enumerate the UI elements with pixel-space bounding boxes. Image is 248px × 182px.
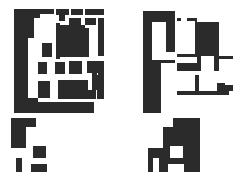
- pattern-block: [55, 62, 65, 74]
- pattern-block: [28, 98, 38, 113]
- pattern-block: [42, 43, 52, 57]
- pattern-block: [219, 59, 233, 71]
- pattern-block: [201, 56, 214, 71]
- pattern-block: [60, 25, 85, 57]
- pattern-block: [143, 9, 177, 11]
- bottom-right-pattern-graphic: [148, 118, 200, 172]
- pattern-block: [56, 23, 60, 59]
- pattern-block: [28, 9, 40, 18]
- pattern-block: [139, 9, 143, 113]
- pattern-block: [31, 164, 47, 172]
- pattern-block: [168, 164, 184, 172]
- pattern-block: [229, 91, 233, 113]
- panel-top-left: [14, 9, 104, 113]
- pattern-block: [69, 18, 81, 25]
- pattern-block: [58, 80, 88, 90]
- pattern-block: [225, 75, 233, 85]
- pattern-block: [98, 18, 104, 56]
- pattern-block: [28, 18, 34, 38]
- pattern-block: [177, 95, 229, 113]
- pattern-block: [181, 18, 187, 21]
- pattern-block: [40, 9, 54, 14]
- top-right-pattern-graphic: [139, 9, 233, 113]
- pattern-block: [59, 11, 65, 21]
- pattern-block: [177, 9, 195, 18]
- pattern-block: [200, 9, 233, 18]
- pattern-block: [195, 9, 200, 18]
- pattern-block: [87, 61, 98, 73]
- pattern-block: [177, 75, 195, 91]
- pattern-block: [219, 22, 233, 56]
- pattern-block: [98, 61, 104, 75]
- pattern-block: [38, 62, 47, 74]
- pattern-block: [148, 118, 163, 148]
- pattern-block: [163, 118, 173, 127]
- pattern-block: [14, 9, 28, 113]
- pattern-block: [16, 158, 22, 172]
- pattern-block: [11, 118, 26, 148]
- pattern-block: [177, 21, 195, 54]
- pattern-block: [26, 118, 36, 127]
- panel-bottom-left: [11, 118, 63, 172]
- pattern-block: [33, 146, 46, 158]
- top-left-pattern-graphic: [14, 9, 104, 113]
- pattern-block: [161, 63, 177, 113]
- pattern-block: [38, 81, 50, 98]
- pattern-block: [85, 9, 104, 15]
- bottom-left-pattern-graphic: [11, 118, 63, 172]
- pattern-block: [92, 73, 97, 83]
- pattern-block: [197, 18, 233, 22]
- pattern-block: [199, 83, 217, 91]
- pattern-block: [170, 146, 183, 158]
- pattern-block: [177, 57, 197, 63]
- panel-bottom-right: [148, 118, 200, 172]
- pattern-block: [85, 28, 89, 57]
- figure-canvas: [0, 0, 248, 182]
- pattern-block: [85, 18, 96, 25]
- pattern-block: [71, 9, 83, 15]
- panel-top-right: [139, 9, 233, 113]
- pattern-block: [199, 75, 225, 83]
- pattern-block: [58, 90, 96, 99]
- pattern-block: [161, 52, 177, 60]
- pattern-block: [69, 61, 82, 74]
- pattern-block: [97, 75, 104, 99]
- pattern-block: [177, 71, 233, 75]
- pattern-block: [153, 158, 159, 172]
